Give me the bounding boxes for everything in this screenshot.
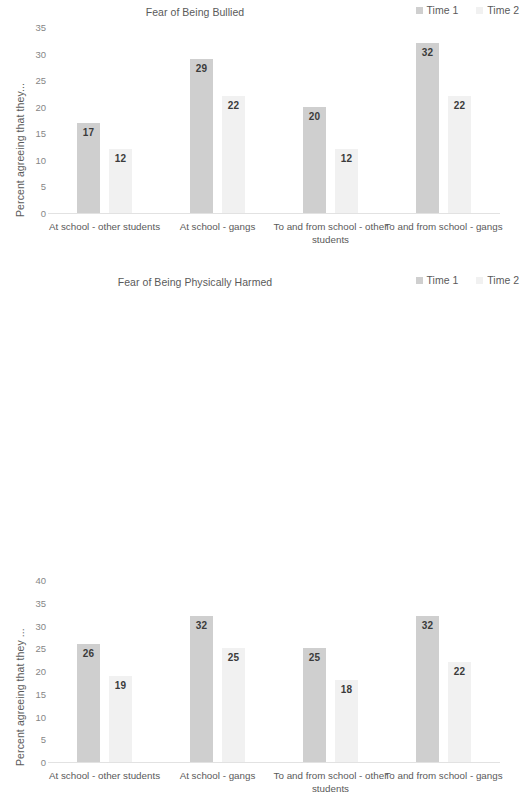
y-axis-tick-label: 40 [6,575,46,586]
x-axis-category-label: To and from school - gangs [381,221,506,234]
bar[interactable]: 18 [335,680,358,762]
bar-value-label: 32 [190,620,213,631]
bar[interactable]: 32 [416,43,439,213]
bar[interactable]: 22 [448,662,471,762]
bar[interactable]: 20 [303,107,326,213]
bar[interactable]: 17 [77,123,100,213]
legend-item-time-2[interactable]: Time 2 [476,274,519,286]
x-axis-category-label: At school - gangs [155,221,280,234]
bar[interactable]: 19 [109,676,132,762]
bar-value-label: 25 [303,652,326,663]
legend-swatch-time-1 [416,277,423,284]
bar[interactable]: 12 [109,149,132,213]
bar[interactable]: 12 [335,149,358,213]
bar-value-label: 22 [448,100,471,111]
y-axis-tick-label: 0 [6,208,46,219]
bar-value-label: 19 [109,680,132,691]
bar-value-label: 26 [77,648,100,659]
x-axis-category-label: At school - other students [42,770,167,783]
bar-value-label: 18 [335,684,358,695]
chart-title: Fear of Being Physically Harmed [0,276,390,288]
x-axis-line [48,762,500,763]
y-axis-ticks: 0510152025303540 [0,540,46,796]
y-axis-tick-label: 0 [6,757,46,768]
x-axis-category-label: To and from school - other students [268,221,393,246]
y-axis-tick-label: 5 [6,181,46,192]
chart-legend: Time 1 Time 2 [416,274,519,286]
bar-value-label: 32 [416,620,439,631]
x-axis-category-label: At school - gangs [155,770,280,783]
y-axis-tick-label: 15 [6,128,46,139]
y-axis-tick-label: 20 [6,666,46,677]
x-axis-category-label: To and from school - gangs [381,770,506,783]
legend-item-time-1[interactable]: Time 1 [416,274,459,286]
y-axis-tick-label: 25 [6,643,46,654]
x-axis-category-label: At school - other students [42,221,167,234]
chart-fear-of-being-physically-harmed: Fear of Being Physically Harmed Time 1 T… [0,270,525,541]
bar[interactable]: 22 [222,96,245,213]
chart-fear-of-being-bullied: Fear of Being Bullied Time 1 Time 2 Perc… [0,0,525,268]
y-axis-tick-label: 30 [6,48,46,59]
legend-swatch-time-2 [476,277,483,284]
legend-label-time-2: Time 2 [487,274,519,286]
bar[interactable]: 29 [190,59,213,213]
bar[interactable]: 32 [190,616,213,762]
bar[interactable]: 22 [448,96,471,213]
y-axis-tick-label: 35 [6,597,46,608]
bar-value-label: 25 [222,652,245,663]
bar-value-label: 29 [190,63,213,74]
x-axis-line [48,213,500,214]
bar-value-label: 32 [416,47,439,58]
y-axis-tick-label: 10 [6,711,46,722]
plot-area: Percent agreeing that they...05101520253… [0,0,525,268]
bar-value-label: 22 [222,100,245,111]
bar-value-label: 12 [335,153,358,164]
bar[interactable]: 25 [222,648,245,762]
bar-value-label: 20 [303,111,326,122]
x-axis-category-label: To and from school - other students [268,770,393,795]
plot-area: Percent agreeing that they ...0510152025… [0,540,525,796]
y-axis-tick-label: 30 [6,620,46,631]
bar[interactable]: 26 [77,644,100,762]
y-axis-tick-label: 20 [6,101,46,112]
legend-label-time-1: Time 1 [427,274,459,286]
y-axis-tick-label: 5 [6,734,46,745]
bar-value-label: 12 [109,153,132,164]
y-axis-tick-label: 10 [6,154,46,165]
y-axis-tick-label: 25 [6,75,46,86]
bar[interactable]: 25 [303,648,326,762]
bar[interactable]: 32 [416,616,439,762]
y-axis-tick-label: 15 [6,688,46,699]
bar-value-label: 17 [77,127,100,138]
y-axis-ticks: 05101520253035 [0,0,46,268]
y-axis-tick-label: 35 [6,22,46,33]
bar-value-label: 22 [448,666,471,677]
chart-header: Fear of Being Physically Harmed Time 1 T… [0,274,525,290]
